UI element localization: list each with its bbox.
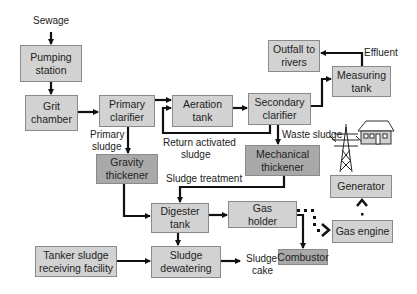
digester-tank-box: Digester tank xyxy=(151,203,209,233)
gravity-thickener-text: Gravity thickener xyxy=(97,156,157,182)
mechanical-thickener-box: Mechanical thickener xyxy=(245,145,320,176)
generator-text: Generator xyxy=(337,180,384,193)
sludge-dewatering-box: Sludge dewatering xyxy=(151,246,221,278)
gas-holder-box: Gas holder xyxy=(228,201,297,228)
grit-chamber-box: Grit chamber xyxy=(25,95,78,131)
gas-holder-text: Gas holder xyxy=(248,202,278,228)
combustor-text: Combustor xyxy=(277,251,328,264)
pumping-station-box: Pumping station xyxy=(20,45,82,82)
return-activated-sludge-label-line2: sludge xyxy=(181,149,210,161)
gravity-thickener-box: Gravity thickener xyxy=(96,154,158,184)
sludge-cake-label-line2: cake xyxy=(252,265,273,277)
combustor-box: Combustor xyxy=(278,249,328,265)
gas-engine-text: Gas engine xyxy=(336,225,390,238)
measuring-tank-text: Measuring tank xyxy=(333,69,390,95)
house-icon xyxy=(358,121,394,144)
measuring-tank-box: Measuring tank xyxy=(332,66,391,97)
primary-clarifier-text: Primary clarifier xyxy=(100,98,154,124)
primary-sludge-label-line1: Primary xyxy=(90,129,124,141)
tanker-facility-text: Tanker sludge receiving facility xyxy=(36,249,116,275)
outfall-text: Outfall to rivers xyxy=(269,43,319,69)
digester-tank-text: Digester tank xyxy=(158,205,202,231)
effluent-label: Effluent xyxy=(364,47,398,59)
aeration-tank-text: Aeration tank xyxy=(183,98,223,124)
sludge-dewatering-text: Sludge dewatering xyxy=(157,249,215,275)
gas-engine-box: Gas engine xyxy=(332,220,393,243)
outfall-to-rivers-box: Outfall to rivers xyxy=(268,40,320,72)
return-activated-sludge-label-line1: Return activated xyxy=(163,137,236,149)
sludge-treatment-label: Sludge treatment xyxy=(166,173,242,185)
aeration-tank-box: Aeration tank xyxy=(172,95,233,127)
mechanical-thickener-text: Mechanical thickener xyxy=(246,148,319,174)
grit-chamber-text: Grit chamber xyxy=(26,100,77,126)
process-diagram: Sewage Effluent Primary sludge Return ac… xyxy=(0,0,417,294)
waste-sludge-label: Waste sludge xyxy=(282,129,342,141)
generator-box: Generator xyxy=(330,175,392,198)
primary-sludge-label-line2: sludge xyxy=(92,141,121,153)
secondary-clarifier-text: Secondary clarifier xyxy=(249,96,310,122)
primary-clarifier-box: Primary clarifier xyxy=(99,95,155,127)
sewage-label: Sewage xyxy=(33,15,69,27)
secondary-clarifier-box: Secondary clarifier xyxy=(248,93,311,125)
sludge-cake-label-line1: Sludge xyxy=(246,253,277,265)
tanker-sludge-facility-box: Tanker sludge receiving facility xyxy=(35,246,117,277)
pumping-station-text: Pumping station xyxy=(21,51,81,77)
